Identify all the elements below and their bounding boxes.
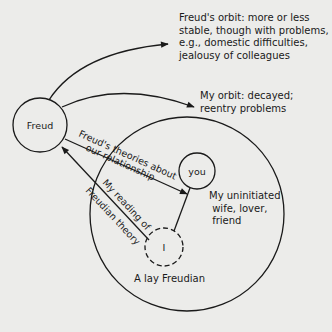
my-orbit-arrow — [62, 94, 194, 108]
freud-label: Freud — [27, 120, 53, 131]
my-orbit-note: My orbit: decayed; reentry problems — [200, 90, 293, 115]
i-label: I — [163, 242, 166, 253]
freud-orbit-arrow — [49, 44, 168, 100]
you-to-i-line — [174, 188, 190, 231]
freud-orbit-note: Freud's orbit: more or less stable, thou… — [179, 12, 329, 62]
you-label: you — [188, 166, 205, 177]
you-description: My uninitiated wife, lover, friend — [209, 190, 281, 228]
lay-freudian-label: A lay Freudian — [134, 273, 205, 286]
